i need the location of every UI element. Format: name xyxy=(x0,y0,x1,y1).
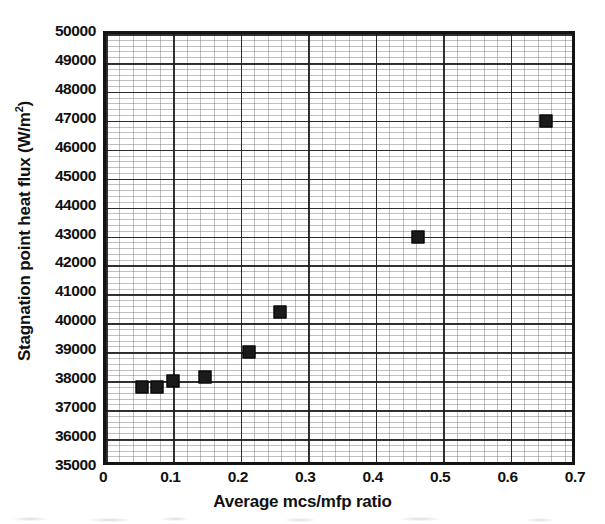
x-axis-tick-label: 0.4 xyxy=(363,468,383,486)
data-point-marker xyxy=(242,346,255,359)
minor-gridlines xyxy=(106,34,572,462)
x-axis-tick-label: 0 xyxy=(99,468,107,486)
y-axis-tick-label: 36000 xyxy=(0,427,96,445)
y-axis-title: Stagnation point heat flux (W/m2) xyxy=(13,101,35,361)
y-axis-tick-label: 44000 xyxy=(0,196,96,214)
scan-artifact-strip xyxy=(0,515,605,524)
x-axis-tick-label: 0.5 xyxy=(430,468,450,486)
y-axis-title-base: Stagnation point heat flux (W/m xyxy=(15,112,34,361)
y-axis-tick-label: 46000 xyxy=(0,138,96,156)
y-axis-title-tail: ) xyxy=(15,101,34,106)
y-axis-tick-label: 48000 xyxy=(0,80,96,98)
data-point-marker xyxy=(167,375,180,388)
data-point-marker xyxy=(273,305,286,318)
y-axis-tick-label: 43000 xyxy=(0,225,96,243)
y-axis-tick-label: 41000 xyxy=(0,282,96,300)
x-axis-tick-label: 0.6 xyxy=(497,468,517,486)
y-axis-tick-label: 39000 xyxy=(0,340,96,358)
y-axis-tick-label: 49000 xyxy=(0,51,96,69)
y-axis-title-wrapper: Stagnation point heat flux (W/m2) xyxy=(7,11,41,451)
data-point-marker xyxy=(411,230,424,243)
y-axis-tick-label: 50000 xyxy=(0,22,96,40)
y-axis-tick-label: 35000 xyxy=(0,456,96,474)
plot-area xyxy=(103,31,575,465)
x-axis-tick-label: 0.2 xyxy=(228,468,248,486)
y-axis-tick-label: 42000 xyxy=(0,253,96,271)
figure-scatter-stagnation-heat-flux: 3500036000370003800039000400004100042000… xyxy=(0,0,605,524)
y-axis-tick-label: 40000 xyxy=(0,311,96,329)
x-axis-tick-label: 0.7 xyxy=(565,468,585,486)
data-point-marker xyxy=(199,370,212,383)
x-axis-title: Average mcs/mfp ratio xyxy=(0,492,605,512)
major-gridlines xyxy=(106,34,572,462)
y-axis-tick-label: 38000 xyxy=(0,369,96,387)
y-axis-tick-label: 37000 xyxy=(0,398,96,416)
y-axis-tick-label: 47000 xyxy=(0,109,96,127)
data-point-marker xyxy=(539,114,552,127)
data-point-marker xyxy=(150,380,163,393)
y-axis-tick-label: 45000 xyxy=(0,167,96,185)
y-axis-title-superscript: 2 xyxy=(13,106,25,112)
x-axis-tick-label: 0.3 xyxy=(295,468,315,486)
data-point-marker xyxy=(135,380,148,393)
x-axis-tick-label: 0.1 xyxy=(160,468,180,486)
